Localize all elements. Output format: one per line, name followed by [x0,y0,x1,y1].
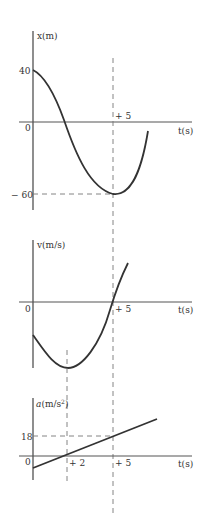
tick-t2: + 2 [69,458,85,468]
a-graph-ylabel: a(m/s2) [36,398,68,409]
tick-t5: + 5 [115,304,131,314]
tick-0: 0 [25,304,31,314]
velocity-graph: v(m/s) 0 + 5 t(s) [19,240,193,368]
tick-neg60: − 60 [11,190,33,200]
kinematics-diagram: x(m) 40 0 − 60 + 5 t(s) v(m/s) 0 + 5 t(s… [0,0,209,516]
x-graph-xlabel: t(s) [178,126,193,136]
tick-40: 40 [19,66,31,76]
v-graph-xlabel: t(s) [178,305,193,315]
v-graph-ylabel: v(m/s) [36,240,65,250]
acceleration-graph: a(m/s2) 18 0 + 2 + 5 t(s) [19,350,193,485]
tick-t5: + 5 [115,458,131,468]
tick-0: 0 [25,123,31,133]
tick-t5: + 5 [115,111,131,121]
position-graph: x(m) 40 0 − 60 + 5 t(s) [11,31,193,516]
velocity-curve [33,263,128,368]
acceleration-line [33,419,157,468]
a-graph-xlabel: t(s) [178,459,193,469]
position-curve [33,70,148,194]
x-graph-ylabel: x(m) [37,31,58,41]
tick-0: 0 [25,457,31,467]
tick-18: 18 [21,432,33,442]
